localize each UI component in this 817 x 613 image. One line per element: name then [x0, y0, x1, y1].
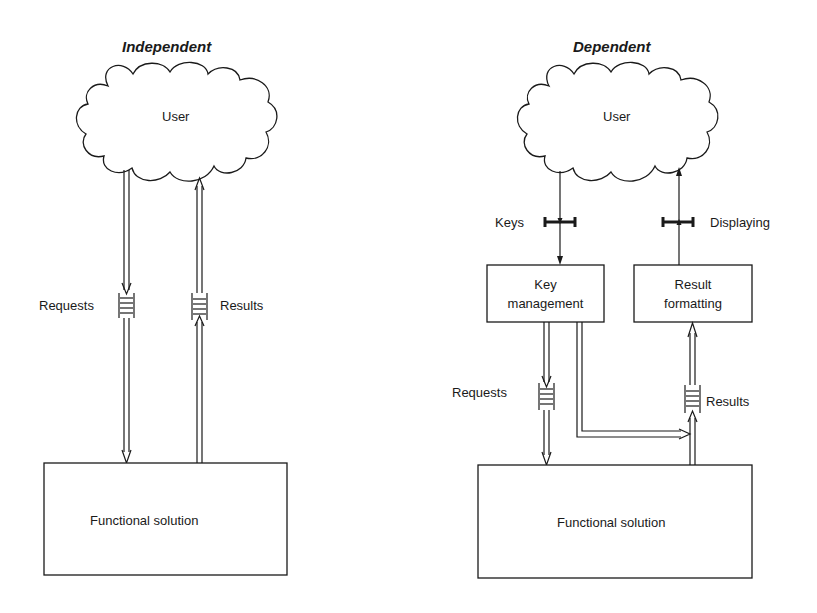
requests-buffer-icon: [119, 293, 134, 318]
key-management-box: [487, 265, 604, 322]
key-management-label-line1: Key: [534, 277, 557, 292]
requests-flow-arrow: [122, 170, 131, 463]
panel-title-dependent: Dependent: [573, 38, 652, 55]
results-flow-arrow: [688, 323, 697, 465]
displaying-interface-icon: [663, 217, 693, 227]
results-buffer-icon: [685, 385, 700, 413]
keys-flow-arrow: [557, 171, 563, 265]
functional-solution-label: Functional solution: [557, 515, 665, 530]
displaying-label: Displaying: [710, 215, 770, 230]
results-label: Results: [220, 298, 264, 313]
displaying-flow-arrow: [676, 167, 682, 265]
results-label: Results: [706, 394, 750, 409]
panel-title-independent: Independent: [122, 38, 212, 55]
key-to-results-flow-arrow: [577, 322, 690, 439]
panel-independent: Independent User Requests: [39, 38, 287, 575]
result-formatting-box: [634, 265, 752, 322]
functional-solution-label: Functional solution: [90, 513, 198, 528]
key-management-label-line2: management: [508, 296, 584, 311]
requests-label: Requests: [452, 385, 507, 400]
results-flow-arrow: [195, 178, 204, 463]
user-label: User: [603, 109, 631, 124]
keys-label: Keys: [495, 215, 524, 230]
result-formatting-label-line2: formatting: [664, 296, 722, 311]
diagram-canvas: Independent User Requests: [0, 0, 817, 613]
panel-dependent: Dependent User Keys Displaying: [452, 38, 770, 578]
user-label: User: [162, 109, 190, 124]
result-formatting-label-line1: Result: [675, 277, 712, 292]
requests-label: Requests: [39, 298, 94, 313]
